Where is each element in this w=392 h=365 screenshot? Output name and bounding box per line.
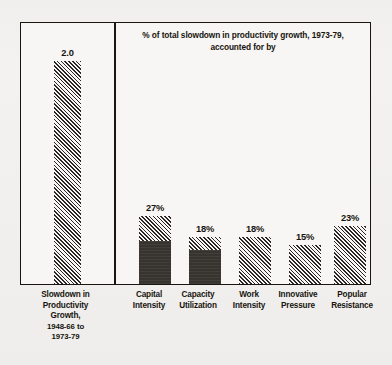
bar-value-innovative-pressure: 15% bbox=[296, 232, 314, 242]
xlabel-line-2: Intensity bbox=[233, 301, 265, 310]
bar-value-slowdown: 2.0 bbox=[61, 48, 73, 58]
bar-segment-hatched bbox=[334, 226, 366, 284]
bar-value-popular-resistance: 23% bbox=[341, 213, 359, 223]
bar-innovative-pressure: 15% bbox=[289, 245, 321, 284]
chart-frame: % of total slowdown in productivity grow… bbox=[20, 22, 371, 285]
bar-segment-hatched bbox=[189, 237, 221, 250]
caption-line-2: accounted for by bbox=[210, 42, 275, 52]
xlabel-line-4: 1948-66 to bbox=[47, 322, 84, 331]
bar-segment-hatched bbox=[139, 216, 171, 241]
bar-work-intensity: 18% bbox=[239, 237, 271, 284]
xlabel-popular-resistance: Popular Resistance bbox=[320, 290, 384, 311]
bar-capacity-utilization: 18% bbox=[189, 237, 221, 284]
xlabel-line-1: Innovative bbox=[279, 290, 318, 299]
bar-segment-hatched bbox=[54, 61, 81, 284]
xlabel-line-3: Growth, bbox=[51, 311, 81, 320]
bar-popular-resistance: 23% bbox=[334, 226, 366, 284]
bar-capital-intensity: 27% bbox=[139, 216, 171, 284]
xlabel-line-1: Work bbox=[239, 290, 259, 299]
xlabel-line-1: Capacity bbox=[182, 290, 215, 299]
xlabel-line-2: Pressure bbox=[281, 301, 315, 310]
bar-segment-hatched bbox=[239, 237, 271, 284]
xlabel-line-5: 1973-79 bbox=[52, 332, 80, 341]
panel-divider bbox=[114, 23, 116, 284]
xlabel-line-2: Productivity bbox=[43, 301, 89, 310]
xlabel-line-1: Capital bbox=[136, 290, 162, 299]
xlabel-line-1: Popular bbox=[337, 290, 366, 299]
bar-value-capacity-utilization: 18% bbox=[196, 224, 214, 234]
bar-segment-solid bbox=[189, 250, 221, 284]
caption-line-1: % of total slowdown in productivity grow… bbox=[142, 30, 343, 40]
xlabel-slowdown-productivity-growth: Slowdown in Productivity Growth, 1948-66… bbox=[13, 290, 118, 343]
bar-segment-solid bbox=[139, 241, 171, 284]
xlabel-line-2: Intensity bbox=[133, 301, 165, 310]
xlabel-capacity-utilization: Capacity Utilization bbox=[167, 290, 229, 311]
xlabel-line-2: Utilization bbox=[179, 301, 216, 310]
bar-segment-hatched bbox=[289, 245, 321, 284]
xlabel-line-2: Resistance bbox=[331, 301, 373, 310]
bar-slowdown-productivity-growth: 2.0 bbox=[54, 61, 81, 284]
page-background: % of total slowdown in productivity grow… bbox=[0, 0, 392, 365]
right-panel-caption: % of total slowdown in productivity grow… bbox=[120, 30, 366, 53]
bar-value-work-intensity: 18% bbox=[246, 224, 264, 234]
bar-value-capital-intensity: 27% bbox=[146, 203, 164, 213]
xlabel-line-1: Slowdown in bbox=[41, 290, 89, 299]
